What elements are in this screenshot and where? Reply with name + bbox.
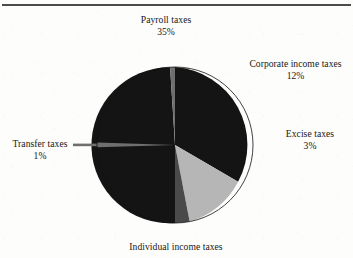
pie-label-payroll-taxes: Payroll taxes 35% [106, 14, 226, 37]
pie-label-transfer-taxes: Transfer taxes 1% [2, 138, 78, 161]
pie-label-corporate-income-taxes-name: Corporate income taxes [249, 58, 341, 69]
pie-label-transfer-taxes-name: Transfer taxes [13, 138, 68, 149]
pie-label-payroll-taxes-value: 35% [106, 26, 226, 38]
pie-label-payroll-taxes-name: Payroll taxes [141, 14, 191, 25]
pie-label-transfer-taxes-value: 1% [2, 150, 78, 162]
pie-label-excise-taxes-value: 3% [267, 140, 353, 152]
chart-page: Payroll taxes 35% Corporate income taxes… [0, 0, 353, 258]
pie-label-corporate-income-taxes: Corporate income taxes 12% [238, 58, 353, 81]
pie-label-individual-income-taxes: Individual income taxes [96, 241, 256, 253]
pie-label-corporate-income-taxes-value: 12% [238, 70, 353, 82]
pie-label-excise-taxes: Excise taxes 3% [267, 128, 353, 151]
pie-label-excise-taxes-name: Excise taxes [286, 128, 334, 139]
pie-label-individual-income-taxes-name: Individual income taxes [129, 241, 222, 252]
